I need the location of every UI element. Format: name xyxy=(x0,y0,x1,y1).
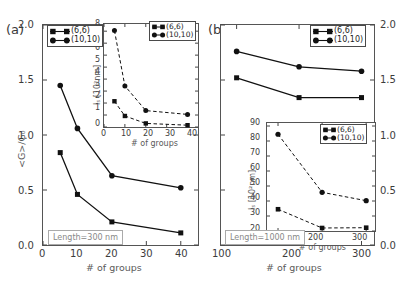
circle-marker-icon xyxy=(151,31,166,39)
panel-a-legend-label-1: (10,10) xyxy=(71,36,100,44)
panel-a-xtick-30: 30 xyxy=(140,248,153,259)
panel-a-inset-xtick-20: 20 xyxy=(143,129,153,138)
panel-a-inset-legend-label-1: (10,10) xyxy=(166,31,193,39)
panel-a-inset-xaxis-title: # of groups xyxy=(131,139,178,148)
panel-b-inset-legend: (6,6) (10,10) xyxy=(320,124,367,144)
panel-a-ytick-1.5: 1.5 xyxy=(18,74,34,85)
panel-b-inset-xtick-200: 200 xyxy=(308,233,323,242)
square-marker-icon xyxy=(312,27,334,36)
panel-a-annotation: Length=300 nm xyxy=(48,230,123,245)
panel-a-inset-ytick-0: 0 xyxy=(95,119,100,128)
panel-b-inset-legend-label-1: (10,10) xyxy=(337,134,364,142)
panel-b-xtick-100: 100 xyxy=(212,248,231,259)
panel-a-inset-xtick-30: 30 xyxy=(165,129,175,138)
panel-a-xaxis-title: # of groups xyxy=(86,262,142,273)
panel-b-ytick-1.5: 1.5 xyxy=(380,74,396,85)
panel-a-ytick-2.0: 2.0 xyxy=(18,19,34,30)
circle-marker-icon xyxy=(322,134,337,142)
circle-marker-icon xyxy=(312,36,334,45)
panel-b-annotation: Length=1000 nm xyxy=(225,230,305,245)
panel-a-legend-item-1: (10,10) xyxy=(49,36,100,45)
panel-a-legend: (6,6) (10,10) xyxy=(47,25,103,47)
panel-a-inset-xtick-40: 40 xyxy=(187,129,197,138)
square-marker-icon xyxy=(49,27,71,36)
panel-a: (a) 2.0 1.5 1.0 0.5 0.0 0 10 20 30 40 # … xyxy=(0,0,204,287)
panel-b-inset-ytick-90: 90 xyxy=(250,118,260,127)
panel-a-inset-ytick-5: 5 xyxy=(95,55,100,64)
panel-a-ytick-0.5: 0.5 xyxy=(18,185,34,196)
circle-marker-icon xyxy=(49,36,71,45)
panel-b-inset-ytick-70: 70 xyxy=(250,148,260,157)
panel-b-legend: (6,6) (10,10) xyxy=(310,25,366,47)
panel-a-ytick-0.0: 0.0 xyxy=(18,240,34,251)
panel-a-inset-yaxis-title: lₛ [10²nm] xyxy=(93,65,102,105)
panel-b-xaxis-title: # of groups xyxy=(266,262,322,273)
panel-b: (b) 2.0 1.5 1.0 0.5 0.0 100 200 300 # of… xyxy=(204,0,408,287)
panel-a-inset-xtick-10: 10 xyxy=(121,129,131,138)
figure-root: (a) 2.0 1.5 1.0 0.5 0.0 0 10 20 30 40 # … xyxy=(0,0,408,287)
panel-b-ytick-2.0: 2.0 xyxy=(380,19,396,30)
panel-a-inset-xtick-0: 0 xyxy=(101,129,106,138)
panel-a-xtick-0: 0 xyxy=(39,248,45,259)
panel-b-ytick-1.0: 1.0 xyxy=(380,130,396,141)
panel-a-xtick-20: 20 xyxy=(105,248,118,259)
square-marker-icon xyxy=(151,23,166,31)
panel-b-ytick-0.5: 0.5 xyxy=(380,185,396,196)
panel-b-inset-ytick-80: 80 xyxy=(250,133,260,142)
panel-b-ytick-0.0: 0.0 xyxy=(380,240,396,251)
panel-b-inset-yaxis-title: lₛ [10²nm] xyxy=(248,170,257,210)
panel-b-legend-label-1: (10,10) xyxy=(334,36,363,44)
panel-b-inset-xtick-300: 300 xyxy=(352,233,367,242)
panel-a-inset-legend-item-1: (10,10) xyxy=(151,31,193,39)
panel-a-xtick-10: 10 xyxy=(70,248,83,259)
panel-a-yaxis-title: <G>/G₀ xyxy=(16,130,27,168)
panel-b-inset-xaxis-title: # of groups xyxy=(299,243,346,252)
panel-a-inset-legend: (6,6) (10,10) xyxy=(149,21,196,41)
square-marker-icon xyxy=(322,126,337,134)
panel-b-xtick-300: 300 xyxy=(352,248,371,259)
panel-a-xtick-40: 40 xyxy=(175,248,188,259)
panel-b-inset-legend-item-1: (10,10) xyxy=(322,134,364,142)
panel-b-legend-item-1: (10,10) xyxy=(312,36,363,45)
